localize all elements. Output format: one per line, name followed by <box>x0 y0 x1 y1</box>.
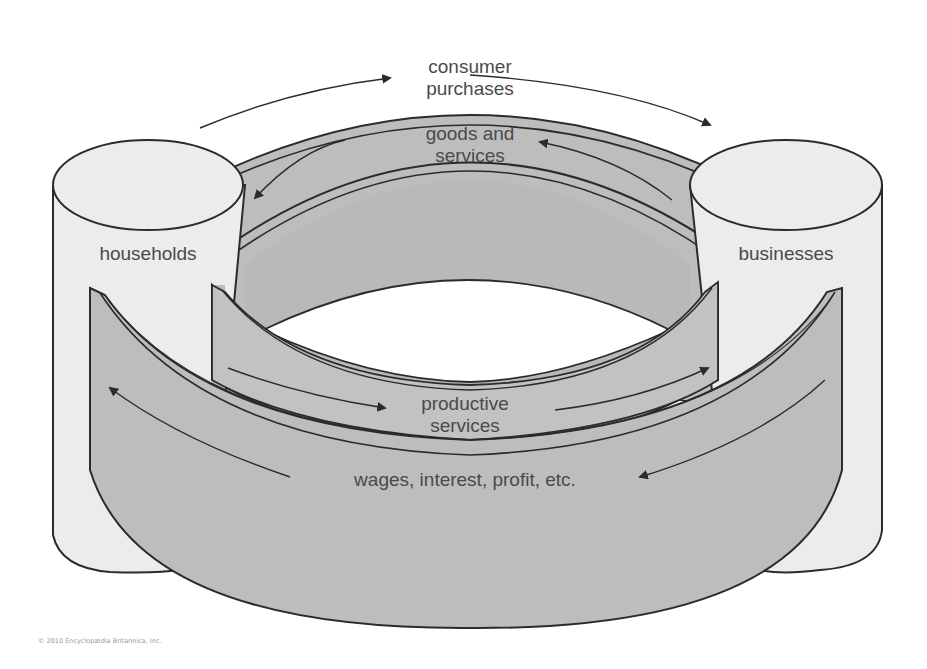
productive-services-line2: services <box>395 415 535 437</box>
label-consumer-purchases: consumer purchases <box>400 56 540 100</box>
consumer-purchases-line1: consumer <box>400 56 540 78</box>
label-goods-services: goods and services <box>400 123 540 167</box>
label-businesses: businesses <box>716 243 856 265</box>
label-households: households <box>78 243 218 265</box>
goods-services-line2: services <box>400 145 540 167</box>
label-productive-services: productive services <box>395 393 535 437</box>
productive-services-line1: productive <box>395 393 535 415</box>
label-wages: wages, interest, profit, etc. <box>300 469 630 491</box>
circular-flow-diagram <box>0 0 927 669</box>
consumer-purchases-line2: purchases <box>400 78 540 100</box>
arrow-consumer-purchases-left <box>200 78 390 128</box>
goods-services-line1: goods and <box>400 123 540 145</box>
copyright-credit: © 2010 Encyclopædia Britannica, Inc. <box>38 637 162 645</box>
